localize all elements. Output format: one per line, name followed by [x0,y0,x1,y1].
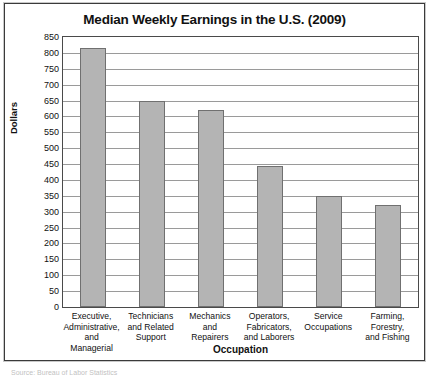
y-tick-label: 550 [7,127,59,137]
y-tick-label: 700 [7,80,59,90]
y-tick-label: 800 [7,48,59,58]
y-tick-label: 850 [7,32,59,42]
page-frame: Median Weekly Earnings in the U.S. (2009… [4,3,425,361]
y-tick-label: 650 [7,96,59,106]
bar [316,196,342,307]
y-tick-label: 400 [7,175,59,185]
y-tick-label: 150 [7,254,59,264]
y-tick-label: 600 [7,111,59,121]
x-tick-label: Operators, Fabricators, and Laborers [240,311,299,343]
x-tick-label: Farming, Forestry, and Fishing [358,311,417,343]
bar [257,166,283,307]
bar-series [63,37,418,307]
page-title: Median Weekly Earnings in the U.S. (2009… [5,12,424,27]
y-tick-label: 0 [7,302,59,312]
y-tick-label: 100 [7,270,59,280]
y-tick-label: 750 [7,64,59,74]
y-tick-label: 200 [7,238,59,248]
x-tick-label: Technicians and Related Support [121,311,180,343]
bar [80,48,106,307]
bar [198,110,224,307]
x-tick-label: Service Occupations [299,311,358,332]
y-tick-label: 50 [7,286,59,296]
y-tick-label: 450 [7,159,59,169]
bar [139,101,165,307]
y-tick-label: 300 [7,207,59,217]
y-axis-ticks: 8508007507006506005505004504003503002502… [5,36,59,308]
y-tick-label: 250 [7,223,59,233]
y-tick-label: 500 [7,143,59,153]
plot-area [62,36,419,308]
source-note: Source: Bureau of Labor Statistics [11,369,161,375]
x-tick-label: Mechanics and Repairers [180,311,239,343]
y-tick-label: 350 [7,191,59,201]
bar [375,205,401,307]
x-axis-title: Occupation [62,344,419,355]
